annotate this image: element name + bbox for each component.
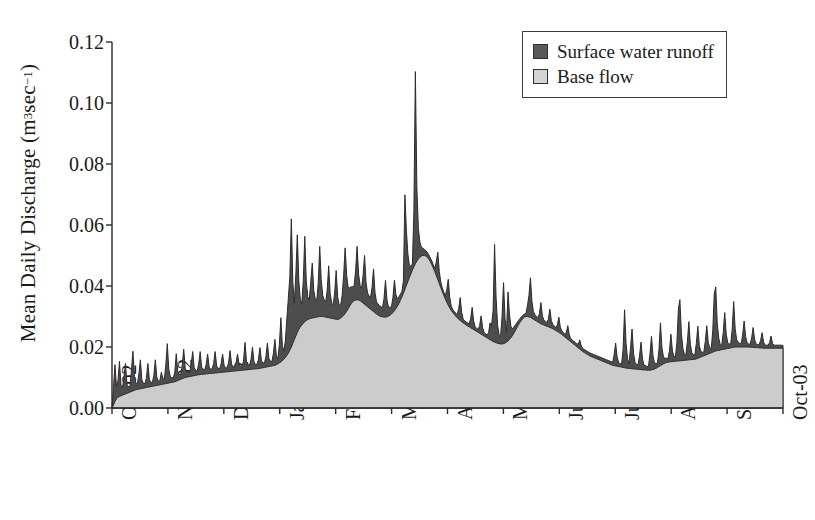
legend-swatch-base-flow (533, 69, 548, 84)
legend-label-base-flow: Base flow (557, 67, 634, 86)
hydrograph-chart: Mean Daily Discharge (m3 sec−1) 0.120.10… (0, 0, 815, 520)
legend-label-surface-water-runoff: Surface water runoff (557, 42, 714, 61)
legend-item-base-flow[interactable]: Base flow (533, 64, 714, 89)
legend-swatch-surface-water-runoff (533, 44, 548, 59)
legend-item-surface-water-runoff[interactable]: Surface water runoff (533, 39, 714, 64)
area-base-flow (112, 256, 783, 409)
legend: Surface water runoff Base flow (522, 31, 727, 98)
